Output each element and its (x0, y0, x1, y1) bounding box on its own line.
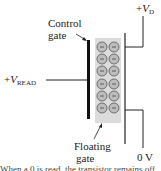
source-lead (125, 110, 143, 148)
floating-gate-label-1: Floating (74, 141, 111, 152)
control-gate-label-1: Control (48, 18, 82, 29)
floating-gate-label-2: gate (76, 153, 94, 164)
vd-sub: D (149, 8, 154, 16)
caption-fragment: When a 0 is read, the transistor remains… (0, 164, 155, 171)
vd-label: +VD (136, 3, 154, 18)
vread-label: +VREAD (4, 74, 36, 89)
vread-v: V (10, 73, 17, 85)
control-gate-label-2: gate (48, 30, 66, 41)
ground-label: 0 V (137, 152, 153, 163)
vread-sub: READ (17, 79, 36, 87)
vd-v: V (142, 2, 149, 14)
drain-lead (125, 16, 143, 47)
control-gate-plate (87, 40, 90, 119)
